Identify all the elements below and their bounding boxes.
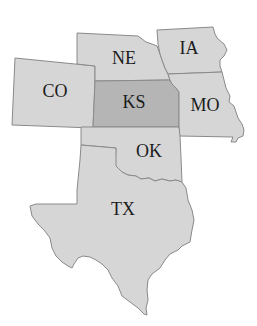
- state-label-ok: OK: [136, 141, 162, 161]
- state-label-co: CO: [42, 81, 67, 101]
- state-label-ia: IA: [180, 38, 199, 58]
- state-label-ne: NE: [112, 48, 136, 68]
- state-label-mo: MO: [190, 95, 219, 115]
- state-label-ks: KS: [122, 92, 145, 112]
- states-map: CO NE IA KS MO OK TX: [0, 0, 257, 326]
- state-label-tx: TX: [111, 199, 135, 219]
